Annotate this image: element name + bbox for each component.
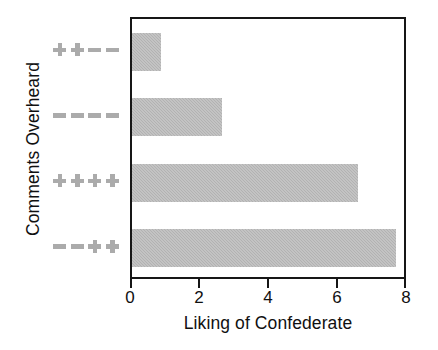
bar bbox=[132, 164, 358, 202]
plus-icon bbox=[88, 174, 101, 187]
plus-icon bbox=[88, 240, 101, 253]
bar bbox=[132, 229, 396, 267]
y-axis-tick-labels bbox=[44, 17, 128, 279]
x-axis-tick-label: 0 bbox=[110, 288, 150, 308]
x-axis-tick-labels: 02468 bbox=[130, 288, 406, 312]
x-axis-tick-mark bbox=[267, 279, 269, 288]
minus-icon bbox=[71, 240, 84, 253]
bar bbox=[132, 33, 161, 71]
x-axis-tick-mark bbox=[336, 279, 338, 288]
plus-icon bbox=[53, 43, 66, 56]
x-axis-tick-mark bbox=[130, 279, 132, 288]
minus-icon bbox=[71, 109, 84, 122]
y-axis-tick-label bbox=[44, 37, 128, 63]
x-axis-tick-label: 2 bbox=[179, 288, 219, 308]
y-axis-tick-label bbox=[44, 102, 128, 128]
bar bbox=[132, 98, 222, 136]
plot-area bbox=[130, 17, 406, 279]
plus-icon bbox=[53, 174, 66, 187]
minus-icon bbox=[106, 109, 119, 122]
plus-icon bbox=[106, 240, 119, 253]
plus-icon bbox=[71, 43, 84, 56]
y-axis-tick-label bbox=[44, 233, 128, 259]
x-axis-title: Liking of Confederate bbox=[130, 313, 406, 334]
minus-icon bbox=[53, 109, 66, 122]
y-axis-tick-label bbox=[44, 168, 128, 194]
plus-icon bbox=[71, 174, 84, 187]
x-axis-tick-label: 8 bbox=[386, 288, 426, 308]
minus-icon bbox=[53, 240, 66, 253]
minus-icon bbox=[88, 43, 101, 56]
x-axis-tick-label: 6 bbox=[317, 288, 357, 308]
x-axis-tick-label: 4 bbox=[248, 288, 288, 308]
x-axis-tick-marks bbox=[130, 279, 406, 288]
x-axis-tick-mark bbox=[198, 279, 200, 288]
plus-icon bbox=[106, 174, 119, 187]
bar-chart-figure: Comments Overheard 02468 Liking of Confe… bbox=[0, 0, 438, 350]
minus-icon bbox=[88, 109, 101, 122]
minus-icon bbox=[106, 43, 119, 56]
bar-series bbox=[132, 19, 404, 277]
x-axis-tick-mark bbox=[404, 279, 406, 288]
